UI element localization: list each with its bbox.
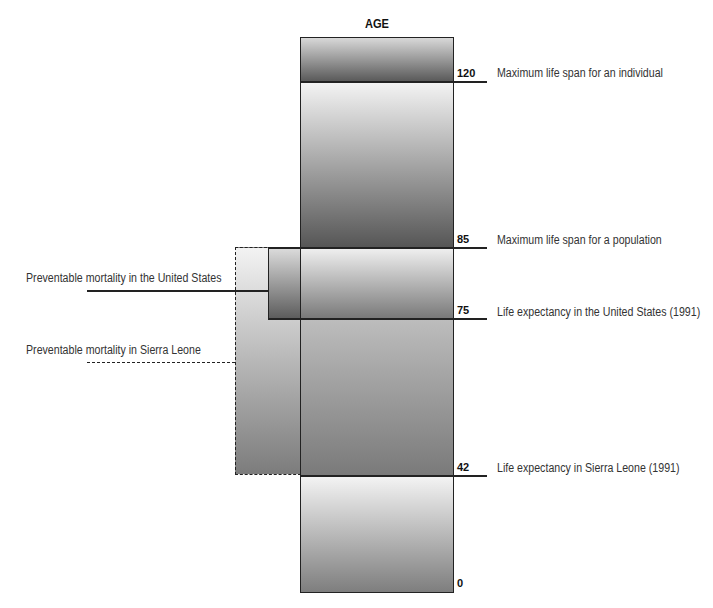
us-leader-line: [87, 290, 268, 292]
tick-0: 0: [457, 577, 463, 589]
label-sl-life-expectancy: Life expectancy in Sierra Leone (1991): [497, 461, 680, 475]
us-preventable-box: [268, 247, 301, 319]
line-75: [268, 318, 487, 320]
sl-leader-line: [87, 362, 235, 363]
label-max-individual: Maximum life span for an individual: [497, 66, 663, 80]
tick-42: 42: [457, 461, 469, 473]
age-column: [300, 37, 454, 593]
label-max-population: Maximum life span for a population: [497, 233, 662, 247]
line-120: [300, 81, 487, 83]
line-85: [268, 247, 487, 249]
label-us-preventable: Preventable mortality in the United Stat…: [26, 271, 221, 285]
label-us-life-expectancy: Life expectancy in the United States (19…: [497, 305, 700, 319]
tick-120: 120: [457, 67, 475, 79]
axis-title: AGE: [312, 16, 443, 31]
label-sl-preventable: Preventable mortality in Sierra Leone: [26, 343, 201, 357]
line-42: [300, 475, 487, 477]
tick-75: 75: [457, 304, 469, 316]
tick-85: 85: [457, 233, 469, 245]
